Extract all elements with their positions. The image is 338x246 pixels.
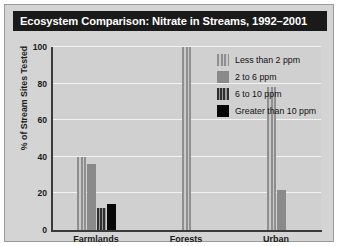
- y-tick-label: 40: [13, 152, 47, 162]
- chart-legend: Less than 2 ppm2 to 6 ppm6 to 10 ppmGrea…: [217, 51, 335, 119]
- legend-swatch: [217, 71, 229, 83]
- y-tick-label: 20: [13, 188, 47, 198]
- legend-item: 2 to 6 ppm: [217, 68, 335, 85]
- bar: [77, 157, 86, 230]
- legend-item: 6 to 10 ppm: [217, 85, 335, 102]
- legend-swatch: [217, 54, 229, 66]
- x-tick-label: Farmlands: [73, 234, 119, 244]
- legend-label: Greater than 10 ppm: [235, 106, 316, 116]
- chart-title-bar: Ecosystem Comparison: Nitrate in Streams…: [13, 11, 327, 31]
- bar: [87, 164, 96, 230]
- y-tick-label: 80: [13, 79, 47, 89]
- legend-label: 6 to 10 ppm: [235, 89, 281, 99]
- legend-label: Less than 2 ppm: [235, 55, 300, 65]
- x-tick-label: Forests: [170, 234, 203, 244]
- x-tick-label: Urban: [263, 234, 289, 244]
- bar: [107, 204, 116, 230]
- bar: [182, 47, 191, 230]
- bar-group: [51, 47, 141, 230]
- legend-item: Greater than 10 ppm: [217, 102, 335, 119]
- legend-swatch: [217, 105, 229, 117]
- y-axis-tick-labels: 020406080100: [9, 47, 47, 230]
- y-tick-label: 0: [13, 225, 47, 235]
- bar: [97, 208, 106, 230]
- y-axis-line: [51, 47, 53, 231]
- legend-label: 2 to 6 ppm: [235, 72, 277, 82]
- legend-swatch: [217, 88, 229, 100]
- x-axis-line: [51, 230, 322, 232]
- bar: [277, 190, 286, 230]
- y-tick-label: 100: [13, 42, 47, 52]
- y-tick-label: 60: [13, 115, 47, 125]
- page-title: Ecosystem Comparison: Nitrate in Streams…: [20, 15, 307, 27]
- chart-figure: Ecosystem Comparison: Nitrate in Streams…: [4, 4, 334, 242]
- legend-item: Less than 2 ppm: [217, 51, 335, 68]
